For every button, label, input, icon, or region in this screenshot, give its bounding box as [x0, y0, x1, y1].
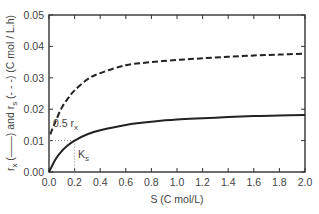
- annotation-half-rx: 0.5 rx: [53, 117, 78, 132]
- y-axis-title: rx (——) and rs (- - -) (C mol / L.h): [4, 15, 19, 171]
- x-tick-label: 0.6: [118, 176, 133, 188]
- x-tick-label: 1.0: [170, 176, 185, 188]
- y-tick-label: 0.01: [24, 135, 45, 147]
- x-axis-title: S (C mol/L): [150, 193, 203, 205]
- x-tick-label: 0.4: [93, 176, 108, 188]
- series-rs-dashed-line: [50, 54, 305, 135]
- x-tick-label: 1.2: [195, 176, 210, 188]
- x-tick-label: 1.4: [221, 176, 236, 188]
- plot-frame: [49, 15, 305, 172]
- x-tick-label: 0.0: [42, 176, 57, 188]
- x-tick-label: 0.2: [67, 176, 82, 188]
- x-tick-label: 1.6: [246, 176, 261, 188]
- annotation-ks: Ks: [78, 148, 89, 163]
- y-tick-label: 0.02: [24, 103, 45, 115]
- chart: 0.000.010.020.030.040.05 0.00.20.40.60.8…: [0, 0, 319, 214]
- y-tick-label: 0.04: [24, 40, 45, 52]
- x-tick-label: 1.8: [272, 176, 287, 188]
- x-axis-ticks: 0.00.20.40.60.81.01.21.41.61.82.0: [42, 15, 313, 188]
- y-tick-label: 0.03: [24, 72, 45, 84]
- annotation-guides: [49, 141, 75, 172]
- x-tick-label: 2.0: [298, 176, 313, 188]
- y-axis-ticks: 0.000.010.020.030.040.05: [24, 9, 305, 178]
- series-rx-solid-line: [49, 115, 305, 172]
- x-tick-label: 0.8: [144, 176, 159, 188]
- y-tick-label: 0.05: [24, 9, 45, 21]
